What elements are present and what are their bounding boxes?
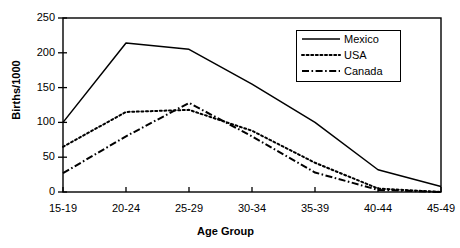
- legend-item: Canada: [297, 63, 400, 79]
- legend-swatch-usa: [301, 49, 341, 61]
- y-axis-tick-label: 100: [9, 116, 55, 127]
- x-axis-tick-label: 20-24: [96, 203, 156, 214]
- y-axis-tick-label: 0: [9, 186, 55, 197]
- legend-swatch-canada: [301, 65, 341, 77]
- chart-legend: MexicoUSACanada: [296, 30, 401, 82]
- y-axis-tick-label: 50: [9, 151, 55, 162]
- legend-label: Canada: [341, 66, 383, 77]
- x-axis-tick-label: 30-34: [222, 203, 282, 214]
- legend-item: Mexico: [297, 31, 400, 47]
- y-axis-tick-label: 200: [9, 47, 55, 58]
- y-axis-tick-label: 150: [9, 82, 55, 93]
- legend-item: USA: [297, 47, 400, 63]
- x-axis-tick-label: 35-39: [285, 203, 345, 214]
- y-axis-tick-label: 250: [9, 12, 55, 23]
- x-axis-tick-label: 40-44: [348, 203, 408, 214]
- x-axis-tick-label: 45-49: [411, 203, 460, 214]
- legend-label: Mexico: [341, 34, 379, 45]
- x-axis-tick-label: 15-19: [33, 203, 93, 214]
- x-axis-title: Age Group: [0, 225, 451, 237]
- x-axis-tick-label: 25-29: [159, 203, 219, 214]
- legend-swatch-mexico: [301, 33, 341, 45]
- legend-label: USA: [341, 50, 367, 61]
- series-line-usa: [63, 110, 441, 192]
